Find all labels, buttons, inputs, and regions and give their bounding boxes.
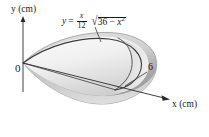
equation-fraction: x 12 <box>77 12 87 31</box>
x-intercept-label: 6 <box>148 62 153 72</box>
y-axis-arrowhead-icon <box>21 16 26 22</box>
x-axis-label: x (cm) <box>172 100 197 110</box>
equation-fraction-numerator: x <box>79 12 85 20</box>
origin-label: 0 <box>15 63 21 74</box>
equation-radicand: 36 − x2 <box>98 17 126 28</box>
x-axis-arrowhead-icon <box>162 95 171 101</box>
equation-radical: √ 36 − x2 <box>91 15 126 27</box>
radicand-constant: 36 <box>98 17 108 27</box>
equation-lhs: y <box>62 17 66 27</box>
equation-fraction-denominator: 12 <box>77 22 87 30</box>
radical-sign-icon: √ <box>91 15 97 27</box>
y-axis-label: y (cm) <box>11 5 36 15</box>
equation-equals-sign: = <box>68 17 73 27</box>
equation-label: y = x 12 √ 36 − x2 <box>62 12 126 31</box>
radicand-exponent: 2 <box>122 15 125 22</box>
radicand-minus-sign: − <box>110 17 115 27</box>
solid-of-revolution-figure: y (cm) x (cm) 0 6 y = x 12 √ 36 − x2 <box>0 0 209 137</box>
